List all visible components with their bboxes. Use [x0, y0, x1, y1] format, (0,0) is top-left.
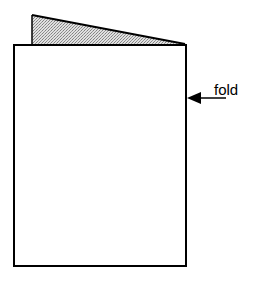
fold-label: fold — [214, 81, 238, 98]
fold-annotation: fold — [187, 81, 238, 104]
left-arrow-icon — [187, 92, 201, 104]
folded-card-diagram: fold — [0, 0, 254, 282]
front-panel — [14, 45, 186, 266]
